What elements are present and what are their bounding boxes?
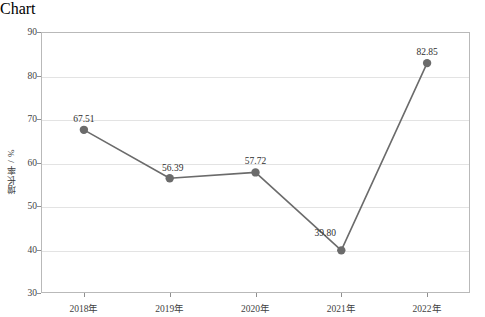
data-point-marker [423, 59, 431, 67]
data-point-marker [251, 168, 259, 176]
data-point-marker [337, 246, 345, 254]
data-point-label: 67.51 [73, 114, 94, 124]
data-point-marker [80, 126, 88, 134]
data-point-label: 82.85 [416, 47, 437, 57]
y-axis-tick-mark [37, 250, 41, 251]
y-axis-tick-mark [37, 163, 41, 164]
y-axis-tick-mark [37, 206, 41, 207]
y-axis-tick-mark [37, 119, 41, 120]
data-point-label: 57.72 [245, 156, 266, 166]
y-axis-tick-mark [37, 76, 41, 77]
data-point-marker [166, 174, 174, 182]
line-chart: 增长率 / % 30405060708090 2018年2019年2020年20… [0, 18, 485, 317]
series-layer [0, 18, 485, 317]
y-axis-tick-mark [37, 293, 41, 294]
data-point-label: 39.80 [315, 228, 336, 238]
y-axis-tick-mark [37, 32, 41, 33]
data-point-label: 56.39 [162, 163, 183, 173]
